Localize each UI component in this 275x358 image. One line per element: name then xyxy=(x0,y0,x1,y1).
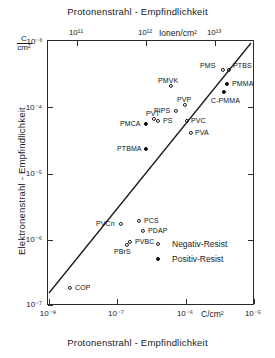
data-label-pvt: PVT xyxy=(146,110,160,117)
left-tick-1e-7 xyxy=(48,305,53,306)
data-label-pbrs: PBrS xyxy=(114,248,131,255)
left-tick-1e-5 xyxy=(48,174,53,175)
data-label-pvbc: PVBC xyxy=(135,238,154,245)
bottom-ticklabel-1e-6: 10⁻⁶ xyxy=(177,309,193,318)
reference-line xyxy=(48,41,255,306)
legend-label-positiv: Positiv-Resist xyxy=(172,252,223,267)
data-label-pmvk: PMVK xyxy=(158,77,178,84)
data-label-pmma: PMMA xyxy=(232,80,253,87)
top-ticklabel-1e11: 10¹¹ xyxy=(69,28,83,37)
bottom-tick-1e-5 xyxy=(254,299,255,304)
left-tick-1e-6 xyxy=(48,240,53,241)
right-tick-1e-5 xyxy=(248,174,253,175)
top-tick-1e11 xyxy=(77,41,78,46)
y-ticklabel-1e-4: 10⁻⁴ xyxy=(8,102,42,111)
bottom-ticklabel-1e-8: 10⁻⁸ xyxy=(40,309,56,318)
y-ticklabel-1e-6: 10⁻⁶ xyxy=(8,235,42,244)
top-ticklabel-1e12: 10¹² xyxy=(138,28,152,37)
chart-figure: Protonenstrahl - Empfindlichkeit Elektro… xyxy=(0,0,275,358)
top-axis-unit: Ionen/cm² xyxy=(159,28,197,38)
right-tick-1e-4 xyxy=(248,107,253,108)
y-ticklabel-1e-5: 10⁻⁵ xyxy=(8,168,42,177)
data-label-pvc: PVC xyxy=(191,117,206,124)
y-axis-title: Elektronenstrahl - Empfindlichkeit xyxy=(16,107,27,255)
y-ticklabel-1e-7: 10⁻⁷ xyxy=(8,300,42,309)
bottom-ticklabel-1e-5: 10⁻⁵ xyxy=(245,309,261,318)
right-tick-1e-6 xyxy=(248,240,253,241)
data-label-pvp: PVP xyxy=(177,96,191,103)
y-ticklabel-1e-3: 10⁻³ xyxy=(8,37,42,46)
top-ticklabel-1e13: 10¹³ xyxy=(207,28,221,37)
legend-label-negativ: Negativ-Resist xyxy=(172,237,227,252)
y-unit-denominator: cm² xyxy=(4,44,44,52)
data-label-ptbs: PTBS xyxy=(233,62,252,69)
data-label-pvcn: PVCn xyxy=(96,220,115,227)
bottom-tick-1e-8 xyxy=(49,299,50,304)
bottom-axis-unit: C/cm² xyxy=(201,309,224,319)
top-axis-title: Protonenstrahl - Empfindlichkeit xyxy=(0,6,275,17)
data-label-pva: PVA xyxy=(195,129,209,136)
data-label-c-pmma: C-PMMA xyxy=(211,97,240,104)
top-tick-1e12 xyxy=(146,41,147,46)
data-label-ptbma: PTBMA xyxy=(117,145,142,152)
bottom-tick-1e-6 xyxy=(186,299,187,304)
bottom-ticklabel-1e-7: 10⁻⁷ xyxy=(108,309,124,318)
data-label-ps: PS xyxy=(163,117,173,124)
data-label-pms: PMS xyxy=(200,62,215,69)
top-tick-1e13 xyxy=(215,41,216,46)
data-label-pdap: PDAP xyxy=(148,227,167,234)
left-tick-1e-4 xyxy=(48,107,53,108)
plot-area: PTBS PMS PMVK PVP PIPS PVT PS PVC PVA PC… xyxy=(47,40,254,305)
data-label-pcs: PCS xyxy=(144,217,159,224)
data-label-pmca: PMCA xyxy=(120,120,141,127)
bottom-axis-title: Protonenstrahl - Empfindlichkeit xyxy=(0,337,275,348)
bottom-tick-1e-7 xyxy=(117,299,118,304)
data-label-cop: COP xyxy=(75,284,90,291)
